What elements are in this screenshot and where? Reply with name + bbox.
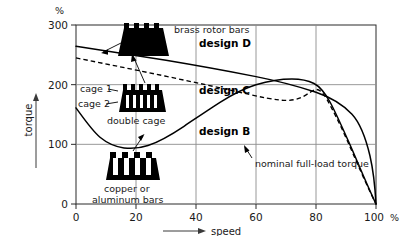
x-tick-label-0: 0 [73, 211, 80, 223]
y-tick-label-100: 100 [48, 138, 68, 150]
x-axis-title: speed [211, 226, 241, 236]
chart-canvas: 0 100 200 300 % 0 20 40 60 80 100 % torq [0, 0, 420, 236]
y-axis-unit-label: % [55, 5, 64, 16]
x-tick-label-60: 60 [249, 211, 262, 223]
y-tick-label-200: 200 [48, 79, 68, 91]
double-cage-label: double cage [107, 115, 165, 126]
design-b-label: design B [199, 125, 250, 137]
design-d-label: design D [199, 37, 251, 49]
design-c-label: design C [199, 84, 250, 96]
torque-speed-chart-figure: 0 100 200 300 % 0 20 40 60 80 100 % torq [0, 0, 420, 236]
y-tick-label-300: 300 [48, 19, 68, 31]
cage-2-label: cage 2 [78, 98, 110, 109]
y-axis-title: torque [23, 104, 34, 137]
brass-rotor-bars-label: brass rotor bars [174, 24, 249, 35]
copper-or-label: copper or [104, 183, 150, 194]
nominal-torque-leader [244, 145, 252, 158]
x-axis-ticks: 0 20 40 60 80 100 % [73, 204, 399, 223]
y-axis-title-group: torque [23, 93, 39, 168]
nominal-full-load-torque-label: nominal full-load torque [255, 158, 369, 169]
x-axis-unit-label: % [390, 212, 399, 223]
x-tick-label-100: 100 [364, 211, 384, 223]
aluminum-bars-label: aluminum bars [92, 194, 163, 205]
x-tick-label-40: 40 [189, 211, 202, 223]
x-tick-label-20: 20 [129, 211, 142, 223]
y-axis-ticks: 0 100 200 300 % [48, 5, 76, 210]
x-tick-label-80: 80 [309, 211, 322, 223]
y-tick-label-0: 0 [61, 198, 68, 210]
copper-aluminum-bars-rotor-icon [106, 134, 160, 180]
cage-1-label: cage 1 [80, 83, 112, 94]
x-axis-title-group: speed [163, 226, 241, 236]
